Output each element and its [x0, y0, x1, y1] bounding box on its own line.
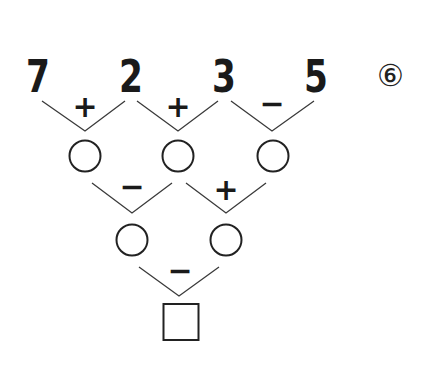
answer-circle-row2-1[interactable]: [116, 224, 149, 257]
problem-number-label: ⑥: [377, 61, 404, 91]
top-number-3: 3: [212, 55, 236, 99]
top-number-4: 5: [304, 55, 328, 99]
operator-plus: +: [213, 175, 238, 205]
operator-minus: −: [259, 89, 284, 119]
answer-circle-row2-2[interactable]: [210, 224, 243, 257]
operator-plus: +: [72, 92, 97, 122]
number-pyramid-puzzle: 7 2 3 5 ⑥ + + − − + −: [0, 0, 433, 368]
operator-plus: +: [165, 92, 190, 122]
answer-circle-row1-3[interactable]: [257, 140, 290, 173]
final-answer-box[interactable]: [163, 303, 200, 341]
answer-circle-row1-2[interactable]: [162, 140, 195, 173]
operator-minus: −: [167, 256, 192, 286]
top-number-1: 7: [26, 55, 50, 99]
answer-circle-row1-1[interactable]: [69, 140, 102, 173]
top-number-2: 2: [119, 55, 143, 99]
operator-minus: −: [119, 172, 144, 202]
